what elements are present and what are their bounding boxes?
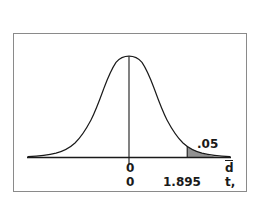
axis-tick-center-bottom: 0 xyxy=(126,176,134,188)
axis-tick-critical-value: 1.895 xyxy=(163,176,201,188)
figure-container: .05 0 0 1.895 d t, xyxy=(0,0,259,210)
axis-label-t: t, xyxy=(225,176,235,188)
axis-tick-center-top: 0 xyxy=(126,162,134,174)
tail-area-label: .05 xyxy=(197,138,218,150)
axis-label-d-bar: d xyxy=(225,160,234,174)
axis-label-d-bar-text: d xyxy=(225,161,234,175)
